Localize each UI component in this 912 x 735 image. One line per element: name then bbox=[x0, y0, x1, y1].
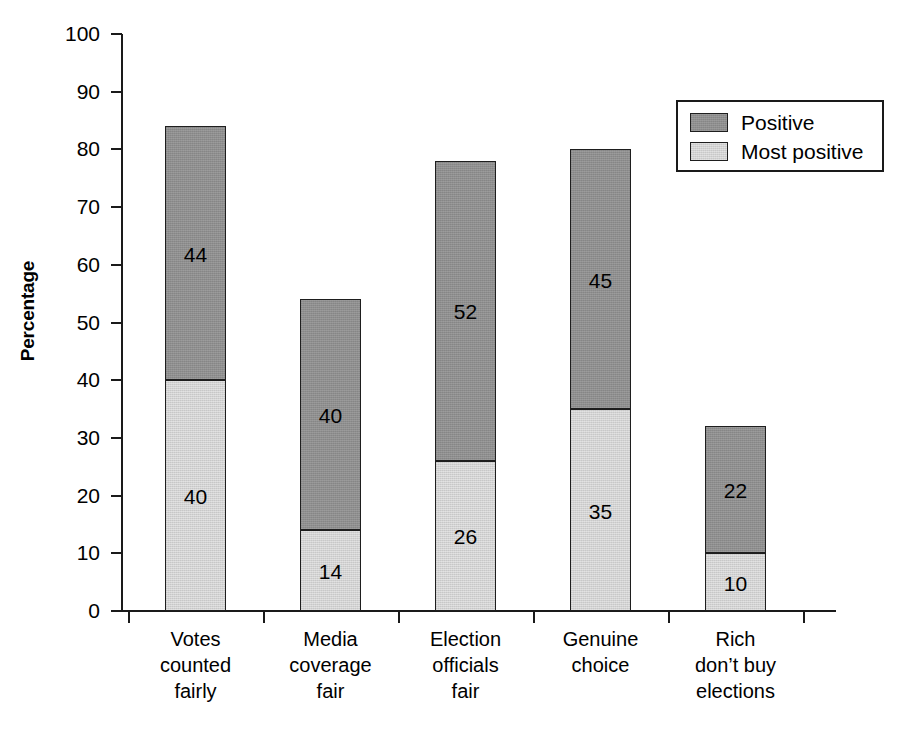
x-axis-category-label-line: Election bbox=[398, 626, 533, 652]
bar-segment: 10 bbox=[705, 553, 766, 611]
x-axis-category-label-line: Genuine bbox=[533, 626, 668, 652]
bar-value-label: 26 bbox=[454, 462, 477, 548]
y-axis-tick bbox=[111, 148, 122, 150]
bar-segment: 52 bbox=[435, 161, 496, 461]
bar-value-label: 44 bbox=[184, 127, 207, 264]
x-axis-tick bbox=[398, 611, 400, 623]
bar-stack: 3545 bbox=[570, 149, 631, 611]
y-axis-tick bbox=[111, 264, 122, 266]
y-axis-tick bbox=[111, 379, 122, 381]
y-axis-tick-label: 80 bbox=[38, 138, 100, 159]
bar-value-label: 52 bbox=[454, 162, 477, 323]
x-axis-category-label-line: coverage bbox=[263, 652, 398, 678]
x-axis-tick bbox=[263, 611, 265, 623]
y-axis-tick-label: 50 bbox=[38, 312, 100, 333]
y-axis-tick-label: 20 bbox=[38, 485, 100, 506]
x-axis-category-label-line: Votes bbox=[128, 626, 263, 652]
bar-stack: 2652 bbox=[435, 161, 496, 611]
y-axis-tick bbox=[111, 437, 122, 439]
bar-stack: 1022 bbox=[705, 426, 766, 611]
y-axis-tick-label: 70 bbox=[38, 196, 100, 217]
x-axis-category-label-line: choice bbox=[533, 652, 668, 678]
bar-segment: 26 bbox=[435, 461, 496, 611]
y-axis-tick-label-text: 30 bbox=[38, 427, 100, 448]
legend-swatch bbox=[690, 142, 728, 161]
y-axis-tick-label-text: 0 bbox=[38, 600, 100, 621]
y-axis-tick-label-text: 20 bbox=[38, 485, 100, 506]
y-axis-tick-label: 100 bbox=[38, 23, 100, 44]
bar-segment: 45 bbox=[570, 149, 631, 409]
y-axis-title: Percentage bbox=[17, 221, 39, 401]
bar-value-label: 40 bbox=[184, 381, 207, 507]
x-axis-category-label: Votescountedfairly bbox=[128, 626, 263, 704]
bar-value-label: 10 bbox=[724, 554, 747, 593]
bar-value-label: 14 bbox=[319, 531, 342, 582]
x-axis-category-label-line: Rich bbox=[668, 626, 803, 652]
bar-value-label: 35 bbox=[589, 410, 612, 521]
y-axis-tick-label-text: 50 bbox=[38, 312, 100, 333]
y-axis-tick-label: 40 bbox=[38, 369, 100, 390]
x-axis-category-label-line: don’t buy bbox=[668, 652, 803, 678]
legend-item: Positive bbox=[690, 108, 882, 137]
y-axis-tick-label-text: 40 bbox=[38, 369, 100, 390]
bar-stack: 1440 bbox=[300, 299, 361, 611]
y-axis-tick-label: 10 bbox=[38, 542, 100, 563]
y-axis-tick-label-text: 90 bbox=[38, 81, 100, 102]
bar-stack: 4044 bbox=[165, 126, 226, 611]
x-axis-category-label: Richdon’t buyelections bbox=[668, 626, 803, 704]
y-axis-tick-label-text: 80 bbox=[38, 138, 100, 159]
y-axis-tick bbox=[111, 206, 122, 208]
bar-value-label: 22 bbox=[724, 427, 747, 501]
y-axis-tick bbox=[111, 33, 122, 35]
stacked-bar-chart: Percentage 1009080706050403020100 404414… bbox=[0, 0, 912, 735]
bar-segment: 40 bbox=[300, 299, 361, 530]
y-axis-tick-label: 30 bbox=[38, 427, 100, 448]
y-axis-tick-label-text: 10 bbox=[38, 542, 100, 563]
y-axis-tick-label-text: 100 bbox=[38, 23, 100, 44]
y-axis-tick-label: 90 bbox=[38, 81, 100, 102]
y-axis-tick-label: 0 bbox=[38, 600, 100, 621]
legend-swatch bbox=[690, 113, 728, 132]
x-axis-category-label-line: fairly bbox=[128, 678, 263, 704]
x-axis-category-label-line: counted bbox=[128, 652, 263, 678]
y-axis-tick-label: 60 bbox=[38, 254, 100, 275]
x-axis-category-label: Electionofficialsfair bbox=[398, 626, 533, 704]
x-axis-tick bbox=[803, 611, 805, 623]
legend: PositiveMost positive bbox=[676, 100, 884, 172]
bar-segment: 44 bbox=[165, 126, 226, 380]
y-axis-tick-label-text: 70 bbox=[38, 196, 100, 217]
y-axis-tick bbox=[111, 322, 122, 324]
bar-value-label: 40 bbox=[319, 300, 342, 426]
legend-item: Most positive bbox=[690, 137, 882, 166]
bar-segment: 22 bbox=[705, 426, 766, 553]
bar-segment: 35 bbox=[570, 409, 631, 611]
x-axis-category-label-line: fair bbox=[263, 678, 398, 704]
y-axis-tick bbox=[111, 495, 122, 497]
bar-value-label: 45 bbox=[589, 150, 612, 290]
x-axis-category-label-line: fair bbox=[398, 678, 533, 704]
y-axis-tick bbox=[111, 552, 122, 554]
x-axis-category-label-line: elections bbox=[668, 678, 803, 704]
x-axis-tick bbox=[533, 611, 535, 623]
x-axis-category-label: Mediacoveragefair bbox=[263, 626, 398, 704]
legend-label: Positive bbox=[741, 112, 815, 133]
bar-segment: 40 bbox=[165, 380, 226, 611]
y-axis-tick-label-text: 60 bbox=[38, 254, 100, 275]
x-axis-category-label: Genuinechoice bbox=[533, 626, 668, 678]
x-axis-category-label-line: officials bbox=[398, 652, 533, 678]
x-axis-tick bbox=[128, 611, 130, 623]
y-axis-tick bbox=[111, 610, 122, 612]
y-axis-tick bbox=[111, 91, 122, 93]
x-axis-category-label-line: Media bbox=[263, 626, 398, 652]
x-axis-tick bbox=[668, 611, 670, 623]
bar-segment: 14 bbox=[300, 530, 361, 611]
legend-label: Most positive bbox=[741, 141, 864, 162]
